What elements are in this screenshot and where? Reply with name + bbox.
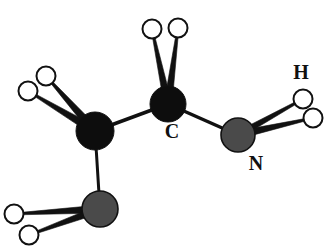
atom-h-h4 <box>169 19 188 38</box>
atom-c-c2 <box>150 86 186 122</box>
molecule-figure: CNH <box>0 0 325 251</box>
atom-h-h3 <box>143 20 162 39</box>
atom-n-n2 <box>82 191 118 227</box>
atom-h-h5 <box>294 90 313 109</box>
label-N: N <box>249 152 264 174</box>
atom-h-h2 <box>19 82 38 101</box>
label-H: H <box>293 61 309 83</box>
atom-c-c1 <box>76 112 114 150</box>
atom-h-h7 <box>5 205 24 224</box>
atom-h-h8 <box>20 226 39 245</box>
atom-h-h6 <box>304 109 323 128</box>
atom-h-h1 <box>37 67 56 86</box>
atom-n-n1 <box>221 118 255 152</box>
label-C: C <box>165 120 179 142</box>
molecule-canvas: CNH <box>0 0 325 251</box>
